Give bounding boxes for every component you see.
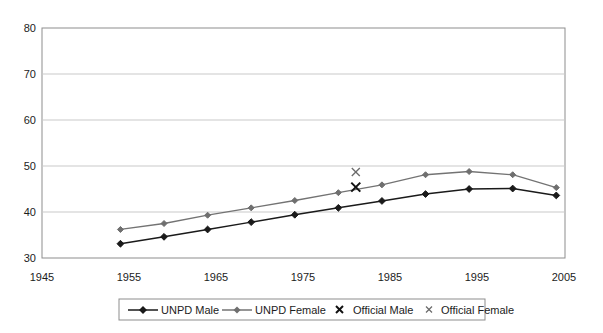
line-chart: 80 70 60 50 40 30 1945 1955 1965 1975 19… [0,0,603,333]
y-tick-label: 30 [24,252,36,264]
y-axis-ticks: 80 70 60 50 40 30 [24,22,36,264]
legend-label-unpd-male: UNPD Male [161,304,219,316]
x-tick-label: 1965 [204,271,228,283]
chart-legend: UNPD Male UNPD Female Official Male Offi… [119,299,514,320]
x-tick-label: 2005 [552,271,576,283]
legend-label-unpd-female: UNPD Female [255,304,326,316]
y-tick-label: 70 [24,68,36,80]
legend-label-official-female: Official Female [441,304,514,316]
x-axis-ticks: 1945 1955 1965 1975 1985 1995 2005 [30,271,576,283]
y-tick-label: 60 [24,114,36,126]
legend-label-official-male: Official Male [353,304,413,316]
x-tick-label: 1995 [465,271,489,283]
y-tick-label: 80 [24,22,36,34]
plot-area-border [42,28,565,258]
y-tick-label: 50 [24,160,36,172]
x-tick-label: 1975 [291,271,315,283]
chart-container: 80 70 60 50 40 30 1945 1955 1965 1975 19… [0,0,603,333]
x-tick-label: 1945 [30,271,54,283]
x-tick-label: 1955 [117,271,141,283]
x-tick-label: 1985 [378,271,402,283]
y-tick-label: 40 [24,206,36,218]
